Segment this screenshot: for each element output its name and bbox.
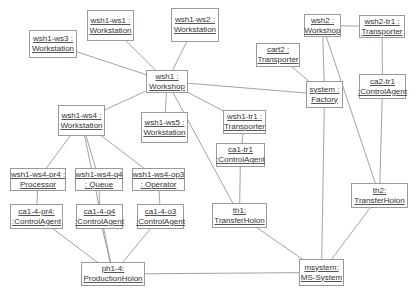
node-wsh1-ws4-q4[interactable]: wsh1-ws4-q4 : Queue [75,168,123,191]
node-cart2[interactable]: cart2 : Transporter [256,43,300,67]
node-type: Factory [311,95,338,105]
node-type: TransferHolon [354,196,404,206]
node-type: MS-System [301,273,342,283]
node-type: :ControlAgent [358,87,407,97]
node-name: cart2 : [267,45,289,55]
node-name: ca1-4-pr4: [18,207,54,217]
node-type: ProductionHolon [83,274,142,284]
node-ca1-4-q4[interactable]: ca1-4-q4 :ControlAgent [76,204,123,229]
node-name: system : [310,85,340,95]
node-type: :ControlAgent [12,217,61,227]
link-system-msystem [322,95,325,273]
node-name: wsh1-ws4-pr4 : [11,170,65,180]
node-wsh1-ws5[interactable]: wsh1-ws5 : Workstation [141,112,188,143]
node-name: wsh1-ws4-q4 [75,170,122,180]
node-name: wsh1-tr1 : [227,112,262,122]
node-name: wsh1-ws4-op3 [133,170,185,180]
node-ca1-4-o3[interactable]: ca1-4-o3 :ControlAgent [137,204,184,229]
node-type: :ControlAgent [136,217,185,227]
node-wsh1-ws2[interactable]: wsh1-ws2 : Workstation [171,8,219,42]
node-th2[interactable]: th2: TransferHolon [351,183,408,208]
node-type: Transporter [257,55,298,65]
node-type: Workstation [143,128,185,138]
node-wsh1-ws3[interactable]: wsh1-ws3 : Workstation [29,30,77,58]
node-type: TransferHolon [214,216,264,226]
node-ph1-4[interactable]: ph1-4: ProductionHolon [81,262,145,286]
node-ca1-4-pr4[interactable]: ca1-4-pr4: :ControlAgent [10,204,63,229]
node-name: ca1-4-q4 [84,207,116,217]
node-type: :ControlAgent [216,155,265,165]
node-name: th1: [233,206,246,216]
node-name: ca1-4-o3 [145,207,177,217]
link-wsh2-th2 [323,26,380,196]
node-name: msystem: [304,263,338,273]
node-name: wsh1-ws5 : [144,118,184,128]
node-name: wsh2 : [311,16,334,26]
node-wsh1-tr1[interactable]: wsh1-tr1 : Transporter [223,110,266,134]
node-wsh1[interactable]: wsh1 : Workshop [146,70,188,93]
node-type: Workshop [305,26,341,36]
node-name: ca1-tr1 [228,145,253,155]
node-type: Workshop [149,82,185,92]
node-wsh1-ws4[interactable]: wsh1-ws4 : Workstation [58,105,105,136]
node-wsh1-ws4-op3[interactable]: wsh1-ws4-op3 : Operator [132,168,185,191]
link-wsh1-system [167,82,325,95]
node-ca2-tr1[interactable]: ca2-tr1 :ControlAgent [359,74,406,99]
node-type: Transporter [361,27,402,37]
node-name: wsh1-ws4 : [61,111,101,121]
node-name: wsh2-tr1 : [364,17,399,27]
node-wsh2-tr1[interactable]: wsh2-tr1 : Transporter [359,15,405,38]
object-diagram: wsh1-ws3 : Workstation wsh1-ws1 : Workst… [0,0,420,294]
node-ca1-tr1[interactable]: ca1-tr1 :ControlAgent [216,143,265,167]
node-name: th2: [373,186,386,196]
node-type: Workstation [89,26,131,36]
link-ca2-tr1-th2 [380,87,383,196]
node-msystem[interactable]: msystem: MS-System [299,259,344,286]
node-wsh1-ws4-pr4[interactable]: wsh1-ws4-pr4 : Processor [10,168,66,191]
node-type: Processor [20,180,56,190]
node-type: : Queue [85,180,113,190]
node-name: ca2-tr1 [370,77,395,87]
link-wsh1-ws4-ph1-4 [82,121,114,275]
node-type: Workstation [60,121,102,131]
node-name: ph1-4: [102,264,125,274]
node-name: wsh1-ws3 : [33,34,73,44]
node-system[interactable]: system : Factory [306,81,343,108]
node-type: Workstation [32,44,74,54]
node-type: :ControlAgent [75,217,124,227]
node-type: Workstation [174,25,216,35]
node-name: wsh1-ws1 : [90,16,130,26]
node-th1[interactable]: th1: TransferHolon [212,203,267,228]
node-wsh1-ws1[interactable]: wsh1-ws1 : Workstation [87,10,134,41]
node-type: Transporter [224,122,265,132]
node-name: wsh1 : [155,72,178,82]
node-type: : Operator [140,180,176,190]
node-wsh2[interactable]: wsh2 : Workshop [304,14,341,37]
node-name: wsh1-ws2 : [175,15,215,25]
